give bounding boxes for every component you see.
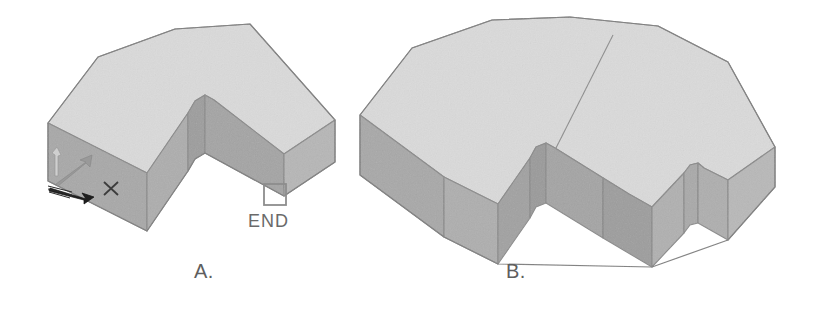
figure-panel: END A. [0,0,815,320]
figure-b-right-corner-face [684,163,698,233]
end-marker-label: END [248,211,289,231]
figure-b-caption: B. [506,260,526,282]
figure-a-caption: A. [194,260,214,282]
technical-illustration-svg: END A. [0,0,815,320]
